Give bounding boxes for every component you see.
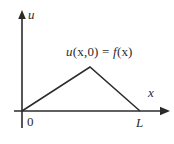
function-annotation: u(x,0) = f(x) xyxy=(66,45,133,58)
annotation-args: (x,0) xyxy=(73,44,99,59)
origin-tick-label: 0 xyxy=(27,115,34,128)
x-axis-arrowhead-icon xyxy=(160,107,170,115)
annotation-equals: = xyxy=(102,44,110,59)
right-endpoint-tick-label: L xyxy=(136,116,143,129)
annotation-function-name: u xyxy=(66,44,73,59)
annotation-rhs-args: (x) xyxy=(117,44,133,59)
math-diagram: u x 0 L u(x,0) = f(x) xyxy=(0,0,174,144)
triangular-profile-curve xyxy=(22,67,140,111)
u-axis-label: u xyxy=(28,8,35,21)
u-axis-arrowhead-icon xyxy=(18,10,26,19)
x-axis-label: x xyxy=(148,86,154,99)
